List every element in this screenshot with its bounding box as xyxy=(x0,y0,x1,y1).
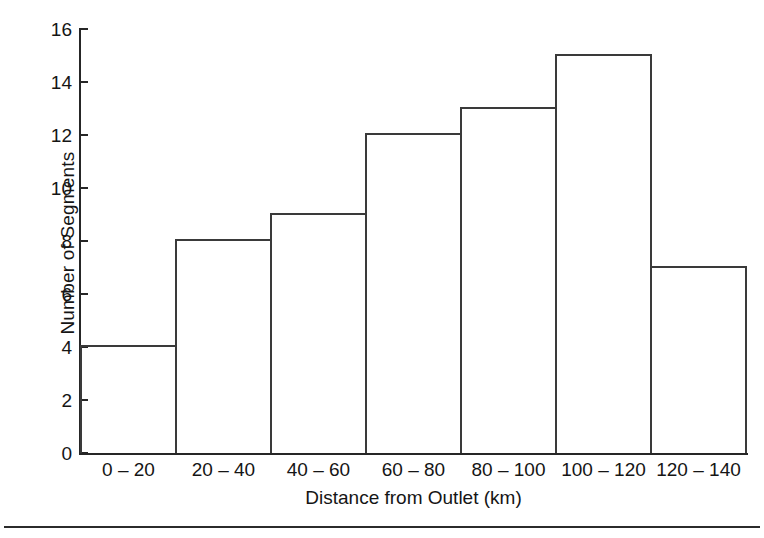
bar xyxy=(80,345,177,453)
y-tick-label: 12 xyxy=(51,125,72,147)
x-axis-line xyxy=(79,453,748,455)
y-tick-mark xyxy=(79,293,88,295)
bar xyxy=(460,107,557,454)
x-tick-label: 100 – 120 xyxy=(556,459,651,481)
plot-area: 0246810121416 xyxy=(81,29,746,453)
x-axis-title: Distance from Outlet (km) xyxy=(81,487,746,509)
y-tick-mark xyxy=(79,187,88,189)
x-tick-label: 120 – 140 xyxy=(651,459,746,481)
y-tick-label: 16 xyxy=(51,19,72,41)
bar xyxy=(175,239,272,453)
y-tick-mark xyxy=(79,134,88,136)
x-tick-label: 0 – 20 xyxy=(81,459,176,481)
footer-divider xyxy=(4,526,760,528)
bar xyxy=(650,266,747,454)
y-tick-mark xyxy=(79,240,88,242)
y-tick-label: 4 xyxy=(61,337,72,359)
x-tick-label: 60 – 80 xyxy=(366,459,461,481)
y-tick-label: 8 xyxy=(61,231,72,253)
y-tick-label: 0 xyxy=(61,443,72,465)
x-axis-tick-labels: 0 – 2020 – 4040 – 6060 – 8080 – 100100 –… xyxy=(81,459,746,485)
x-tick-label: 40 – 60 xyxy=(271,459,366,481)
y-tick-label: 10 xyxy=(51,178,72,200)
y-tick-label: 14 xyxy=(51,72,72,94)
x-tick-label: 20 – 40 xyxy=(176,459,271,481)
y-tick-label: 2 xyxy=(61,390,72,412)
x-tick-label: 80 – 100 xyxy=(461,459,556,481)
histogram-figure: Number of Segments 0246810121416 0 – 202… xyxy=(0,0,764,538)
y-tick-mark xyxy=(79,28,88,30)
bar xyxy=(555,54,652,454)
y-tick-mark xyxy=(79,81,88,83)
bar xyxy=(365,133,462,453)
y-tick-label: 6 xyxy=(61,284,72,306)
bar xyxy=(270,213,367,454)
